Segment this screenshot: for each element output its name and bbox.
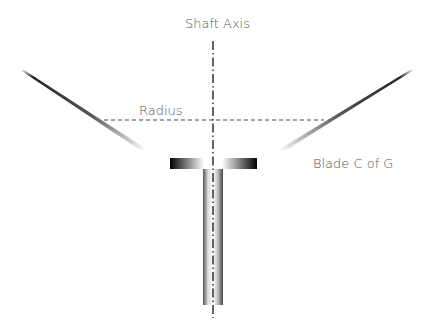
left-blade: [20, 70, 148, 150]
rotor-diagram: Shaft Axis Radius Blade C of G: [0, 0, 434, 330]
shaft-axis-label: Shaft Axis: [185, 16, 250, 31]
radius-label: Radius: [139, 103, 183, 118]
hub-left: [170, 158, 204, 169]
right-blade: [278, 70, 414, 150]
blade-cog-label: Blade C of G: [313, 156, 393, 171]
hub-right: [222, 158, 257, 169]
